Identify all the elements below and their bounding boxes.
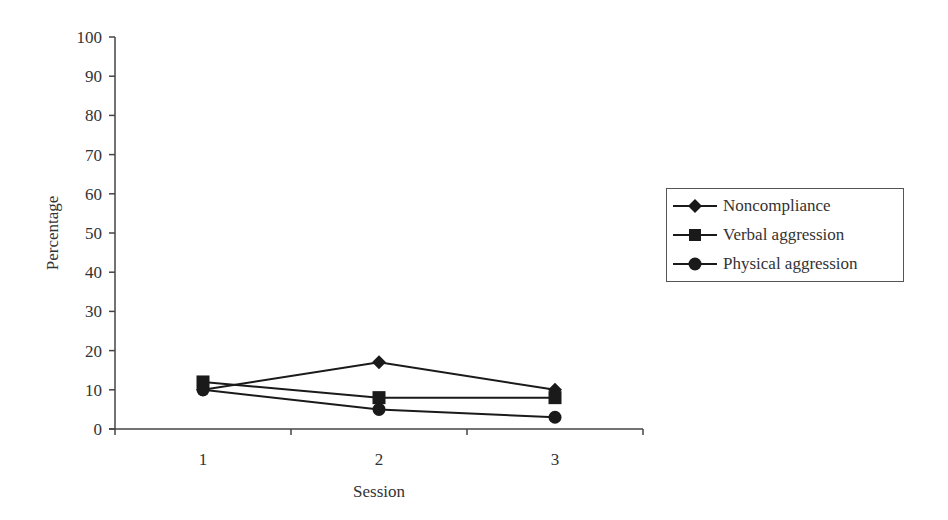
legend-label: Noncompliance	[723, 196, 831, 216]
circle-marker-icon	[197, 383, 210, 396]
legend-item-verbal-aggression: Verbal aggression	[667, 222, 844, 248]
circle-marker-icon	[549, 411, 562, 424]
x-tick-label: 3	[551, 450, 560, 469]
circle-marker-icon	[673, 254, 717, 274]
x-tick-label: 2	[375, 450, 384, 469]
x-axis: 123	[109, 429, 643, 469]
diamond-marker-icon	[372, 355, 386, 369]
legend-item-noncompliance: Noncompliance	[667, 193, 831, 219]
y-tick-label: 90	[85, 67, 102, 86]
series-verbal-aggression	[197, 375, 562, 404]
y-tick-label: 50	[85, 224, 102, 243]
y-tick-label: 0	[94, 420, 103, 439]
square-marker-icon	[373, 391, 386, 404]
x-tick-label: 1	[199, 450, 208, 469]
legend: Noncompliance Verbal aggression Physical…	[666, 188, 904, 282]
series-layer	[196, 355, 562, 423]
legend-item-physical-aggression: Physical aggression	[667, 251, 858, 277]
series-noncompliance	[196, 355, 562, 396]
y-tick-label: 70	[85, 146, 102, 165]
y-axis: 0102030405060708090100	[77, 28, 116, 439]
legend-label: Physical aggression	[723, 254, 858, 274]
y-axis-title: Percentage	[43, 196, 62, 271]
y-tick-label: 10	[85, 381, 102, 400]
y-tick-label: 40	[85, 263, 102, 282]
series-physical-aggression	[197, 383, 562, 423]
square-marker-icon	[673, 225, 717, 245]
y-tick-label: 60	[85, 185, 102, 204]
x-axis-title: Session	[353, 482, 405, 501]
y-tick-label: 30	[85, 302, 102, 321]
legend-label: Verbal aggression	[723, 225, 844, 245]
y-tick-label: 80	[85, 106, 102, 125]
diamond-marker-icon	[673, 196, 717, 216]
circle-marker-icon	[373, 403, 386, 416]
y-tick-label: 20	[85, 342, 102, 361]
square-marker-icon	[549, 391, 562, 404]
y-tick-label: 100	[77, 28, 103, 47]
